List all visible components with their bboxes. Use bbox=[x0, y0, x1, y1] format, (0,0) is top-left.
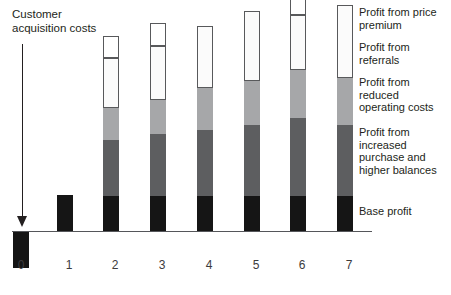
bar-segment-base-profit bbox=[244, 196, 260, 231]
bar-category-5 bbox=[244, 11, 260, 231]
bar-segment-base-profit bbox=[197, 196, 213, 231]
bar-segment-increased-purchase bbox=[103, 140, 119, 196]
bar-category-1 bbox=[57, 195, 73, 231]
bar-category-7 bbox=[337, 5, 353, 231]
bar-segment-referrals bbox=[244, 11, 260, 81]
x-tick-label-1: 1 bbox=[57, 258, 81, 272]
legend-label-referrals: Profit from referrals bbox=[359, 41, 410, 66]
bar-segment-referrals bbox=[290, 15, 306, 70]
bar-segment-base-profit bbox=[150, 196, 166, 231]
bar-category-2 bbox=[103, 36, 119, 231]
bar-segment-price-premium bbox=[150, 23, 166, 46]
bar-segment-base-profit bbox=[290, 196, 306, 231]
bar-segment-base-profit bbox=[337, 196, 353, 231]
bar-segment-increased-purchase bbox=[150, 134, 166, 196]
legend-label-price-premium: Profit from price premium bbox=[359, 6, 437, 31]
bar-segment-reduced-operating-costs bbox=[150, 100, 166, 134]
bar-category-4 bbox=[197, 26, 213, 231]
x-tick-label-2: 2 bbox=[103, 258, 127, 272]
bar-segment-base-profit bbox=[57, 195, 73, 231]
bar-segment-reduced-operating-costs bbox=[244, 81, 260, 125]
x-tick-label-3: 3 bbox=[150, 258, 174, 272]
x-tick-label-0: 0 bbox=[9, 258, 33, 272]
bar-segment-base-profit bbox=[103, 196, 119, 231]
bar-segment-referrals bbox=[197, 26, 213, 88]
legend-label-reduced-operating-costs: Profit from reduced operating costs bbox=[359, 76, 434, 114]
bar-segment-reduced-operating-costs bbox=[337, 78, 353, 125]
bar-segment-referrals bbox=[103, 58, 119, 108]
bar-segment-referrals bbox=[337, 5, 353, 78]
legend-label-base-profit: Base profit bbox=[359, 205, 412, 218]
bar-segment-price-premium bbox=[103, 36, 119, 58]
x-tick-label-4: 4 bbox=[197, 258, 221, 272]
bar-segment-increased-purchase bbox=[290, 118, 306, 196]
chart-figure: Customer acquisition costs bbox=[0, 0, 451, 295]
bar-segment-price-premium bbox=[290, 0, 306, 15]
x-tick-label-6: 6 bbox=[290, 258, 314, 272]
bar-segment-reduced-operating-costs bbox=[197, 88, 213, 130]
x-tick-label-5: 5 bbox=[244, 258, 268, 272]
legend-label-increased-purchase: Profit from increased purchase and highe… bbox=[359, 126, 437, 176]
bar-segment-increased-purchase bbox=[337, 125, 353, 196]
bar-segment-referrals bbox=[150, 46, 166, 100]
bar-category-3 bbox=[150, 23, 166, 231]
bar-segment-increased-purchase bbox=[244, 125, 260, 196]
bar-segment-increased-purchase bbox=[197, 130, 213, 196]
bar-segment-reduced-operating-costs bbox=[290, 70, 306, 118]
x-tick-label-7: 7 bbox=[337, 258, 361, 272]
bar-category-6 bbox=[290, 0, 306, 231]
bar-segment-reduced-operating-costs bbox=[103, 108, 119, 140]
